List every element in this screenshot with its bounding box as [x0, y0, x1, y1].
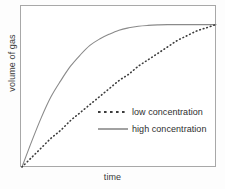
chart-figure: volume of gas time low concentration hig…	[0, 0, 225, 189]
legend-label-high-concentration: high concentration	[128, 124, 206, 134]
dashed-line-marker	[98, 107, 128, 117]
legend-item-low-concentration: low concentration	[98, 103, 218, 120]
plot-area	[20, 5, 216, 167]
solid-line-marker	[98, 124, 128, 134]
curves-svg	[21, 6, 217, 168]
y-axis-label: volume of gas	[7, 13, 17, 113]
x-axis-label: time	[0, 172, 225, 182]
legend-label-low-concentration: low concentration	[128, 107, 203, 117]
legend-item-high-concentration: high concentration	[98, 120, 218, 137]
chart-legend: low concentration high concentration	[98, 103, 218, 137]
curve-high-concentration	[22, 25, 216, 167]
